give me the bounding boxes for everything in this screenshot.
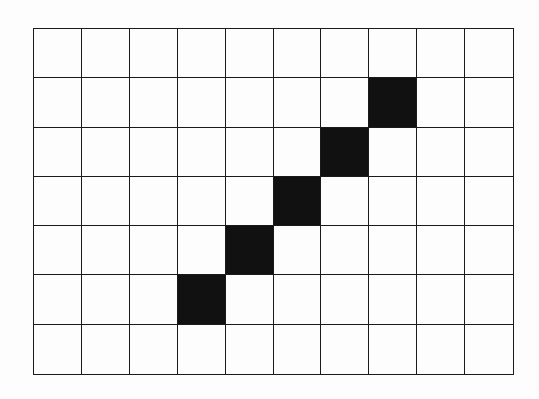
grid-cell xyxy=(130,325,178,374)
grid-cell xyxy=(417,29,465,78)
grid-cell xyxy=(465,177,513,226)
grid-cell xyxy=(274,275,322,324)
grid-cell xyxy=(226,325,274,374)
grid-cell xyxy=(417,177,465,226)
grid-cell xyxy=(465,29,513,78)
filled-cell xyxy=(226,226,274,275)
grid-cell xyxy=(34,325,82,374)
grid-cell xyxy=(226,275,274,324)
grid-cell xyxy=(417,128,465,177)
grid-cell xyxy=(465,325,513,374)
grid-cell xyxy=(82,29,130,78)
grid-cell xyxy=(226,128,274,177)
grid-cell xyxy=(34,29,82,78)
grid-cell xyxy=(178,29,226,78)
filled-cell xyxy=(321,128,369,177)
grid-cell xyxy=(369,325,417,374)
grid-cell xyxy=(130,128,178,177)
grid-cell xyxy=(274,325,322,374)
filled-cell xyxy=(178,275,226,324)
grid-cell xyxy=(321,29,369,78)
grid-cell xyxy=(82,177,130,226)
grid-cell xyxy=(226,29,274,78)
grid-cell xyxy=(417,78,465,127)
grid-cell xyxy=(178,325,226,374)
grid-cell xyxy=(369,275,417,324)
grid-cell xyxy=(417,275,465,324)
grid-cell xyxy=(178,177,226,226)
grid-cell xyxy=(465,226,513,275)
grid-cell xyxy=(178,78,226,127)
grid-cell xyxy=(34,226,82,275)
grid-cell xyxy=(417,325,465,374)
pixel-grid xyxy=(33,28,514,375)
grid-cell xyxy=(34,177,82,226)
grid-cell xyxy=(178,128,226,177)
filled-cell xyxy=(369,78,417,127)
grid-cell xyxy=(130,226,178,275)
grid-cell xyxy=(321,275,369,324)
grid-cell xyxy=(321,177,369,226)
grid-cell xyxy=(465,128,513,177)
grid-cell xyxy=(130,29,178,78)
grid-cell xyxy=(321,325,369,374)
grid-cell xyxy=(274,78,322,127)
grid-cell xyxy=(82,275,130,324)
grid-cell xyxy=(82,78,130,127)
grid-cell xyxy=(178,226,226,275)
grid-cell xyxy=(465,78,513,127)
grid-cell xyxy=(82,325,130,374)
grid-cell xyxy=(226,78,274,127)
grid-cell xyxy=(369,29,417,78)
grid-cell xyxy=(226,177,274,226)
grid-cell xyxy=(321,78,369,127)
grid-cell xyxy=(82,226,130,275)
grid-cell xyxy=(130,275,178,324)
grid-cell xyxy=(274,128,322,177)
grid-cell xyxy=(369,177,417,226)
grid-cell xyxy=(130,177,178,226)
grid-cell xyxy=(465,275,513,324)
grid-cell xyxy=(369,226,417,275)
grid-cell xyxy=(34,128,82,177)
grid-cell xyxy=(417,226,465,275)
grid-cell xyxy=(369,128,417,177)
grid-cell xyxy=(274,226,322,275)
grid-cell xyxy=(321,226,369,275)
grid-cell xyxy=(274,29,322,78)
filled-cell xyxy=(274,177,322,226)
grid-cell xyxy=(130,78,178,127)
grid-cell xyxy=(34,78,82,127)
grid-cell xyxy=(82,128,130,177)
grid-cell xyxy=(34,275,82,324)
